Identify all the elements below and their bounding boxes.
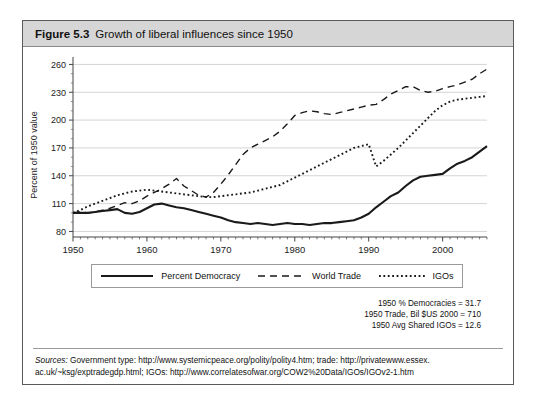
divider: [33, 348, 503, 349]
legend-swatch-solid: [100, 271, 154, 281]
note-democracies: 1950 % Democracies = 31.7: [364, 299, 481, 310]
svg-text:140: 140: [51, 171, 66, 181]
legend-item-percent-democracy: Percent Democracy: [100, 271, 240, 281]
plot-area: Percent of 1950 value 801101401702002302…: [23, 47, 513, 263]
legend-swatch-dotted: [378, 271, 426, 281]
figure-title: Growth of liberal influences since 1950: [95, 28, 293, 40]
svg-text:260: 260: [51, 60, 66, 70]
svg-text:1960: 1960: [136, 244, 157, 255]
svg-text:200: 200: [51, 115, 66, 125]
sources-note: Sources: Government type: http://www.sys…: [35, 355, 501, 379]
svg-text:1950: 1950: [62, 244, 83, 255]
y-axis-label: Percent of 1950 value: [27, 47, 41, 263]
legend-label-percent-democracy: Percent Democracy: [161, 271, 240, 281]
sources-text-1: Government type: http://www.systemicpeac…: [68, 355, 430, 365]
legend-label-world-trade: World Trade: [312, 271, 361, 281]
legend-swatch-dashed: [257, 271, 305, 281]
note-trade: 1950 Trade, Bil $US 2000 = 710: [364, 310, 481, 321]
svg-text:2000: 2000: [432, 244, 453, 255]
svg-text:1990: 1990: [358, 244, 379, 255]
chart-legend: Percent Democracy World Trade IGOs: [91, 264, 463, 288]
svg-text:230: 230: [51, 88, 66, 98]
figure-header: Figure 5.3 Growth of liberal influences …: [23, 21, 513, 47]
svg-text:110: 110: [52, 199, 66, 209]
sources-line-1: Sources: Government type: http://www.sys…: [35, 355, 501, 367]
svg-text:1970: 1970: [210, 244, 231, 255]
svg-text:170: 170: [51, 143, 66, 153]
legend-item-world-trade: World Trade: [257, 271, 361, 281]
line-chart: 8011014017020023026019501960197019801990…: [41, 51, 497, 263]
figure-container: Figure 5.3 Growth of liberal influences …: [22, 20, 514, 385]
svg-text:1980: 1980: [284, 244, 305, 255]
legend-label-igos: IGOs: [433, 271, 454, 281]
sources-label: Sources:: [35, 355, 68, 365]
y-axis-label-text: Percent of 1950 value: [29, 111, 39, 199]
figure-number: Figure 5.3: [35, 28, 89, 40]
sources-line-2: ac.uk/~ksg/exptradegdp.html; IGOs: http:…: [35, 367, 501, 379]
legend-item-igos: IGOs: [378, 271, 454, 281]
note-igos: 1950 Avg Shared IGOs = 12.6: [364, 321, 481, 332]
svg-text:80: 80: [56, 227, 66, 237]
baseline-notes: 1950 % Democracies = 31.7 1950 Trade, Bi…: [364, 299, 481, 332]
